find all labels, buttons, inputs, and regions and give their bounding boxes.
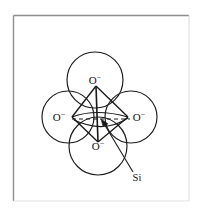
- oxygen-left-label-charge: −: [61, 110, 66, 119]
- silicon-label: Si: [133, 172, 142, 183]
- oxygen-left-label-text: O: [53, 111, 61, 123]
- figure-container: O− O− O− O− Si: [0, 0, 202, 216]
- oxygen-bottom-label-text: O: [92, 140, 100, 152]
- sio4-tetrahedron-diagram: O− O− O− O− Si: [0, 0, 202, 216]
- oxygen-top-label-charge: −: [97, 73, 102, 82]
- oxygen-right-label-text: O: [133, 111, 141, 123]
- oxygen-bottom-label-charge: −: [100, 139, 105, 148]
- oxygen-right-label-charge: −: [141, 110, 146, 119]
- oxygen-top-label-text: O: [89, 74, 97, 86]
- page-background: [0, 0, 202, 216]
